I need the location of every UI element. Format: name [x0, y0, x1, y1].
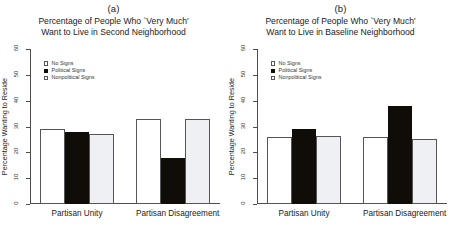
panel-a-y-axis-title: Percentage Wanting to Reside: [0, 61, 9, 191]
x-category-label: Partisan Disagreement: [363, 209, 437, 218]
panel-a-y-axis: [30, 49, 31, 204]
y-tick-mark: [253, 49, 257, 50]
panel-a-plot-area: Percentage Wanting to Reside 01020304050…: [30, 49, 220, 204]
x-category-label: Partisan Unity: [267, 209, 341, 218]
x-category-label: Partisan Unity: [40, 209, 114, 218]
y-tick-mark: [26, 178, 30, 179]
legend-item-political-signs: Political Signs: [271, 67, 321, 74]
y-tick-label: 20: [9, 148, 23, 154]
y-tick-mark: [26, 204, 30, 205]
panel-b-y-axis: [257, 49, 258, 204]
y-tick-label: 60: [236, 45, 250, 51]
bar: [65, 132, 90, 204]
panel-b: (b) Percentage of People Who `Very Much'…: [227, 0, 454, 243]
legend-item-nonpolitical-signs: Nonpolitical Signs: [271, 74, 321, 81]
bar: [412, 139, 437, 204]
y-tick-label: 40: [9, 97, 23, 103]
panel-a-title-line1: Percentage of People Who `Very Much': [0, 16, 227, 27]
panel-b-title-line1: Percentage of People Who `Very Much': [227, 16, 454, 27]
y-tick-label: 10: [9, 174, 23, 180]
y-tick-label: 0: [236, 200, 250, 206]
y-tick-label: 40: [236, 97, 250, 103]
bar: [185, 119, 210, 204]
y-tick-mark: [253, 101, 257, 102]
legend-key-political-signs-icon: [271, 69, 275, 73]
panel-a-letter: (a): [0, 3, 227, 14]
bar: [316, 136, 341, 204]
legend-key-no-signs-icon: [271, 61, 275, 65]
y-tick-mark: [253, 127, 257, 128]
legend-label-political-signs: Political Signs: [279, 67, 313, 74]
legend-label-political-signs: Political Signs: [52, 67, 86, 74]
bar: [267, 137, 292, 204]
legend-label-no-signs: No Signs: [52, 60, 74, 67]
panel-b-legend: No Signs Political Signs Nonpolitical Si…: [271, 60, 321, 82]
legend-key-political-signs-icon: [44, 69, 48, 73]
legend-label-nonpolitical-signs: Nonpolitical Signs: [279, 74, 322, 81]
panel-b-plot-area: Percentage Wanting to Reside 01020304050…: [257, 49, 447, 204]
y-tick-label: 30: [236, 123, 250, 129]
y-tick-mark: [26, 127, 30, 128]
panel-a-title: Percentage of People Who `Very Much' Wan…: [0, 16, 227, 37]
legend-label-nonpolitical-signs: Nonpolitical Signs: [52, 74, 95, 81]
panel-b-title-line2: Want to Live in Baseline Neighborhood: [227, 27, 454, 38]
figure: (a) Percentage of People Who `Very Much'…: [0, 0, 454, 243]
panel-b-y-axis-title: Percentage Wanting to Reside: [227, 61, 236, 191]
x-category-label: Partisan Disagreement: [136, 209, 210, 218]
y-tick-mark: [253, 178, 257, 179]
bar: [136, 119, 161, 204]
panel-a-title-line2: Want to Live in Second Neighborhood: [0, 27, 227, 38]
y-tick-mark: [253, 75, 257, 76]
y-tick-label: 10: [236, 174, 250, 180]
panel-a-legend: No Signs Political Signs Nonpolitical Si…: [44, 60, 94, 82]
legend-label-no-signs: No Signs: [279, 60, 301, 67]
bar: [363, 137, 388, 204]
y-tick-label: 60: [9, 45, 23, 51]
y-tick-mark: [253, 152, 257, 153]
y-tick-label: 0: [9, 200, 23, 206]
y-tick-mark: [26, 49, 30, 50]
legend-key-no-signs-icon: [44, 61, 48, 65]
y-tick-label: 50: [9, 71, 23, 77]
legend-key-nonpolitical-signs-icon: [44, 76, 48, 80]
y-tick-mark: [26, 101, 30, 102]
y-tick-label: 50: [236, 71, 250, 77]
panel-a: (a) Percentage of People Who `Very Much'…: [0, 0, 227, 243]
y-tick-mark: [26, 75, 30, 76]
y-tick-mark: [253, 204, 257, 205]
bar: [89, 134, 114, 204]
bar: [388, 106, 413, 204]
panel-b-letter: (b): [227, 3, 454, 14]
y-tick-label: 30: [9, 123, 23, 129]
legend-item-no-signs: No Signs: [271, 60, 321, 67]
panel-b-title: Percentage of People Who `Very Much' Wan…: [227, 16, 454, 37]
bar: [292, 129, 317, 204]
legend-item-nonpolitical-signs: Nonpolitical Signs: [44, 74, 94, 81]
legend-key-nonpolitical-signs-icon: [271, 76, 275, 80]
bar: [40, 129, 65, 204]
legend-item-no-signs: No Signs: [44, 60, 94, 67]
legend-item-political-signs: Political Signs: [44, 67, 94, 74]
y-tick-mark: [26, 152, 30, 153]
y-tick-label: 20: [236, 148, 250, 154]
bar: [161, 158, 186, 205]
